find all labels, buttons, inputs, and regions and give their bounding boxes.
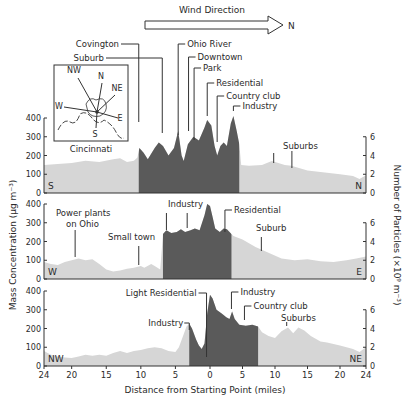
wind-arrow-n-label: N xyxy=(288,21,295,31)
direction-label: E xyxy=(117,114,122,123)
annotation-label: Small town xyxy=(108,232,155,242)
annotation-label: Country club xyxy=(253,301,307,311)
annotation-label: Suburb xyxy=(74,53,104,63)
x-tick-label: 10 xyxy=(135,370,146,380)
direction-label: W xyxy=(55,102,63,111)
y-left-axis-title: Mass Concentration (µg m⁻³) xyxy=(8,180,18,311)
y-left-tick-label: 100 xyxy=(26,343,41,352)
y-left-tick-label: 200 xyxy=(26,325,41,334)
y-right-axis-title: Number of Particles (×10⁹ m⁻³) xyxy=(392,165,402,306)
annotation-label: Light Residential xyxy=(126,288,197,298)
cincinnati-inset-map: NWNNEWESCincinnati xyxy=(54,65,128,154)
y-right-tick-label: 2 xyxy=(370,170,375,179)
y-right-tick-label: 4 xyxy=(370,238,375,247)
wind-direction-label: Wind Direction xyxy=(179,5,245,15)
x-tick-label: 20 xyxy=(66,370,77,380)
direction-label: NE xyxy=(111,84,122,93)
annotation-label: Country club xyxy=(226,91,280,101)
y-right-tick-label: 2 xyxy=(370,256,375,265)
y-right-tick-label: 0 xyxy=(370,189,375,198)
annotation-label: on Ohio xyxy=(66,219,99,229)
x-tick-label: 15 xyxy=(302,370,313,380)
y-left-tick-label: 0 xyxy=(36,189,41,198)
y-right-tick-label: 6 xyxy=(370,219,375,228)
end-direction-label: NE xyxy=(350,354,363,364)
annotation: Industry xyxy=(233,101,277,111)
pollution-transect-chart: 01002003004000246SN01002003004000246WE01… xyxy=(0,0,405,400)
y-left-tick-label: 400 xyxy=(26,287,41,296)
direction-label: N xyxy=(98,72,104,81)
annotation: Country club xyxy=(217,91,280,142)
x-tick-label: 15 xyxy=(101,370,112,380)
y-right-tick-label: 6 xyxy=(370,306,375,315)
annotation: Power plantson Ohio xyxy=(56,208,111,257)
y-left-tick-label: 200 xyxy=(26,238,41,247)
x-tick-label: 20 xyxy=(335,370,346,380)
end-direction-label: N xyxy=(355,181,362,191)
annotation-label: Residential xyxy=(216,78,263,88)
start-direction-label: NW xyxy=(48,354,64,364)
start-direction-label: S xyxy=(48,181,54,191)
start-direction-label: W xyxy=(48,267,57,277)
y-left-tick-label: 400 xyxy=(26,200,41,209)
end-direction-label: E xyxy=(356,267,362,277)
y-left-tick-label: 400 xyxy=(26,114,41,123)
annotation-label: Covington xyxy=(76,39,119,49)
y-right-tick-label: 4 xyxy=(370,325,375,334)
annotation-label: Industry xyxy=(242,101,277,111)
annotation-label: Downtown xyxy=(198,52,243,62)
annotation: Suburbs xyxy=(274,141,319,163)
y-left-tick-label: 100 xyxy=(26,170,41,179)
x-tick-label: 0 xyxy=(207,370,212,380)
x-tick-label: 5 xyxy=(173,370,178,380)
annotation: Small town xyxy=(108,232,155,265)
annotation-label: Suburbs xyxy=(283,141,318,151)
y-right-tick-label: 6 xyxy=(370,133,375,142)
x-tick-label: 24 xyxy=(361,370,372,380)
annotation: Suburbs xyxy=(281,313,316,326)
annotation-label: Suburbs xyxy=(281,313,316,323)
wind-direction-arrow: Wind DirectionN xyxy=(145,5,295,34)
y-left-tick-label: 300 xyxy=(26,219,41,228)
direction-label: S xyxy=(92,130,97,139)
annotation: Industry xyxy=(148,318,189,330)
y-left-tick-label: 100 xyxy=(26,256,41,265)
direction-label: NW xyxy=(67,66,81,75)
inset-city-label: Cincinnati xyxy=(70,144,112,154)
x-tick-label: 5 xyxy=(240,370,245,380)
y-left-tick-label: 300 xyxy=(26,306,41,315)
y-right-tick-label: 4 xyxy=(370,152,375,161)
y-left-tick-label: 300 xyxy=(26,133,41,142)
y-left-tick-label: 0 xyxy=(36,275,41,284)
annotation: Suburb xyxy=(256,223,286,251)
annotation-label: Suburb xyxy=(256,223,286,233)
annotation-label: Power plants xyxy=(56,208,111,218)
y-right-tick-label: 0 xyxy=(370,275,375,284)
y-right-tick-label: 2 xyxy=(370,343,375,352)
annotation-label: Industry xyxy=(240,287,275,297)
annotation-label: Industry xyxy=(168,199,203,209)
y-left-tick-label: 200 xyxy=(26,152,41,161)
annotation-label: Industry xyxy=(148,318,183,328)
annotation-label: Park xyxy=(203,63,221,73)
x-tick-label: 24 xyxy=(39,370,50,380)
annotation-label: Ohio River xyxy=(187,39,232,49)
x-tick-label: 10 xyxy=(270,370,281,380)
x-axis-title: Distance from Starting Point (miles) xyxy=(124,385,285,395)
annotation: Industry xyxy=(166,199,203,230)
annotation-label: Residential xyxy=(234,205,281,215)
